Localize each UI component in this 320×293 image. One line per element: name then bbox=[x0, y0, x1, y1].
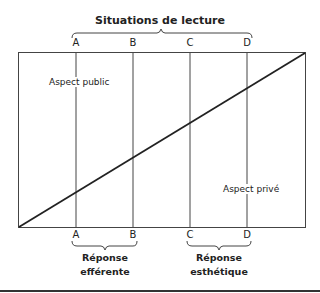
reponse-esthetique: Réponse esthétique bbox=[169, 251, 269, 279]
top-label-a: A bbox=[66, 37, 86, 48]
aspect-public-label: Aspect public bbox=[49, 77, 110, 87]
reponse-efferente: Réponse efférente bbox=[55, 251, 155, 279]
bottom-label-c: C bbox=[180, 229, 200, 240]
top-label-c: C bbox=[180, 37, 200, 48]
reponse-efferente-line2: efférente bbox=[55, 265, 155, 279]
bottom-label-b: B bbox=[123, 229, 143, 240]
bottom-label-a: A bbox=[66, 229, 86, 240]
top-label-d: D bbox=[237, 37, 257, 48]
aspect-prive-label: Aspect privé bbox=[223, 184, 279, 194]
top-label-b: B bbox=[123, 37, 143, 48]
diagram-graphic bbox=[0, 0, 320, 293]
bottom-label-d: D bbox=[237, 229, 257, 240]
reponse-esthetique-line1: Réponse bbox=[169, 251, 269, 265]
bottom-rule bbox=[0, 290, 320, 292]
reponse-esthetique-line2: esthétique bbox=[169, 265, 269, 279]
reponse-efferente-line1: Réponse bbox=[55, 251, 155, 265]
